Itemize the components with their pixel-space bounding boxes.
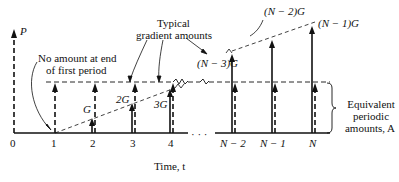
a-arrow-4 [170,83,176,133]
gradient-label-g: G [83,103,91,115]
tick-n-minus-2: N − 2 [220,137,246,149]
gradient-label-2g: 2G [116,93,129,105]
equivalent-annotation-line1: Equivalent [343,98,399,110]
axis-ellipsis: · · · [191,128,208,140]
tick-3: 3 [130,137,136,149]
time-axis-label: Time, t [154,160,185,172]
a-arrow-n1 [272,83,278,133]
tick-2: 2 [90,137,96,149]
present-value-label: P [20,25,27,37]
no-amount-annotation-line1: No amount at end [38,52,117,64]
g-arrow-3 [129,103,135,133]
equivalent-level-line [46,79,330,84]
equivalent-annotation-line3: amounts, A [341,122,399,134]
tick-4: 4 [168,137,174,149]
equivalent-annotation-line2: periodic [343,110,399,122]
g-arrow-n [309,26,315,133]
tick-n-minus-1: N − 1 [260,137,286,149]
tick-1: 1 [51,137,57,149]
gradient-label-n1g: (N − 1)G [318,17,359,29]
g-arrow-4 [167,89,173,133]
typical-annotation-line2: gradient amounts [136,29,212,41]
tick-n: N [309,137,316,149]
gradient-label-3g: 3G [154,98,167,110]
gradient-label-n3g: (N − 3)G [197,57,238,69]
gradient-label-n2g: (N − 2)G [264,5,305,17]
present-value-arrow [11,29,17,133]
cash-flow-diagram: P No amount at end of first period Typic… [0,0,399,182]
tick-0: 0 [10,137,16,149]
a-arrow-n [312,83,318,133]
typical-annotation-line1: Typical [157,17,190,29]
a-arrow-1 [52,83,58,133]
equivalent-brace [327,83,336,133]
no-amount-annotation-line2: of first period [46,64,106,76]
a-arrow-n2 [232,83,238,133]
